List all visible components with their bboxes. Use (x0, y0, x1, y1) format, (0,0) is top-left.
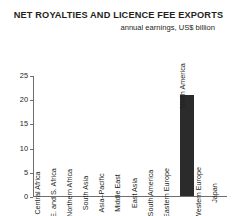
bar-slot: South America (147, 76, 163, 196)
category-label: Japan (211, 183, 219, 203)
category-label: East Asia (131, 178, 139, 208)
bar-slot: Japan (211, 76, 227, 196)
y-tick-label: 20 (20, 95, 28, 104)
bar-slot: Asia–Pacific (98, 76, 114, 196)
bar-slot: Western Europe (195, 76, 211, 196)
y-tick-mark (30, 100, 33, 101)
y-tick-label: 10 (20, 144, 28, 153)
bar-slot: East Asia (130, 76, 146, 196)
bar-slot: Northern Africa (66, 76, 82, 196)
y-tick-label: 5 (24, 168, 28, 177)
category-label: Asia–Pacific (98, 173, 106, 212)
y-tick-label: 0 (24, 192, 28, 201)
y-tick-mark (30, 149, 33, 150)
bar-slot: North America (179, 76, 195, 196)
bar-series: Central AfricaE. and S. AfricaNorthern A… (34, 76, 227, 196)
bar-slot: South Asia (82, 76, 98, 196)
chart-title: NET ROYALTIES AND LICENCE FEE EXPORTS (0, 10, 237, 21)
category-label: Eastern Europe (163, 168, 171, 216)
category-label: Northern Africa (66, 169, 74, 216)
category-label: Middle East (114, 174, 122, 212)
y-tick-label: 15 (20, 119, 28, 128)
bar-slot: E. and S. Africa (50, 76, 66, 196)
bar-slot: Central Africa (34, 76, 50, 196)
y-tick-mark (30, 124, 33, 125)
chart-subtitle: annual earnings, US$ billion (0, 23, 237, 32)
chart-figure: NET ROYALTIES AND LICENCE FEE EXPORTS an… (0, 0, 241, 216)
y-tick-mark (30, 76, 33, 77)
y-tick-label: 25 (20, 71, 28, 80)
title-block: NET ROYALTIES AND LICENCE FEE EXPORTS an… (0, 10, 237, 32)
category-label: North America (179, 63, 187, 109)
category-label: Central Africa (34, 171, 42, 214)
plot-area: 0510152025 Central AfricaE. and S. Afric… (33, 76, 227, 197)
category-label: South Asia (82, 176, 90, 210)
bar-slot: Middle East (114, 76, 130, 196)
category-label: E. and S. Africa (50, 168, 58, 216)
category-label: South America (147, 170, 155, 216)
bar-slot: Eastern Europe (163, 76, 179, 196)
bar (180, 95, 194, 196)
category-label: Western Europe (195, 167, 203, 216)
